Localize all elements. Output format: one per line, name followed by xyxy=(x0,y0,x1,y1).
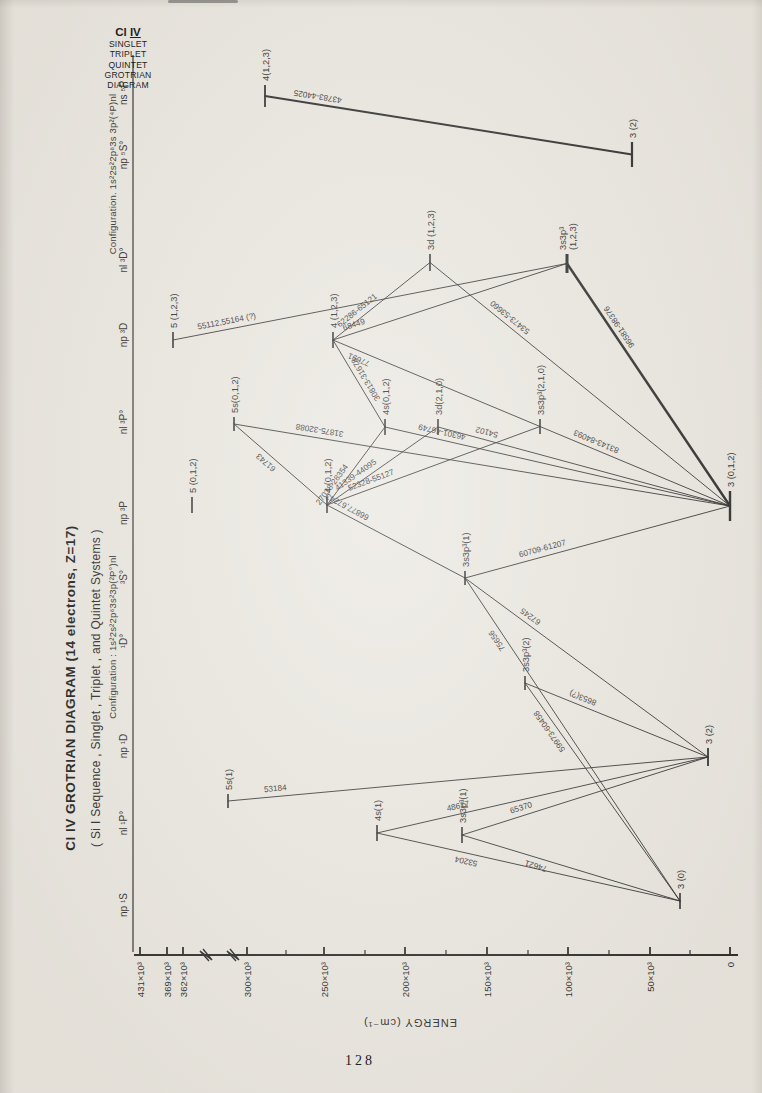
corner-title-block: Cl IV SINGLET TRIPLET QUINTET GROTRIAN D… xyxy=(100,26,156,90)
level-label: (1,2,3) xyxy=(568,223,578,250)
column-header: np ¹D xyxy=(118,734,129,758)
column-header: np ¹S xyxy=(118,893,129,917)
transition-label: 53184 xyxy=(264,783,288,794)
transition-line xyxy=(234,424,327,505)
transition-label: 54102 xyxy=(474,424,499,439)
level-label: 3s3p³ xyxy=(558,227,568,250)
level-label: 3d (1,2,3) xyxy=(426,210,436,250)
axis-tick-label: 100×10³ xyxy=(563,962,574,997)
transition-label: 31875-32088 xyxy=(295,422,345,439)
axis-tick-label: 50×10³ xyxy=(645,962,656,992)
corner-title-element: Cl IV xyxy=(100,26,156,39)
column-header: nl ¹P° xyxy=(118,811,129,836)
axis-tick-label: 0 xyxy=(725,962,736,967)
column-header: nl ³D° xyxy=(118,247,129,272)
transition-label: 83143-84093 xyxy=(572,428,620,455)
transition-line xyxy=(333,340,385,427)
configuration-quintet: Configuration. 1s²2s²2p⁶3s 3p²(⁴P)nl xyxy=(107,94,118,254)
transition-line xyxy=(525,683,680,901)
column-header: nl ³P° xyxy=(118,410,129,435)
scan-page: { "page": {"number": "128", "paper": "#e… xyxy=(0,0,762,1093)
axis-tick-label: 431×10³ xyxy=(135,962,146,997)
corner-title-line: QUINTET xyxy=(100,60,156,70)
level-label: 4 (0,1,2) xyxy=(323,458,333,493)
transition-line xyxy=(377,757,708,833)
level-label: 3 (0,1,2) xyxy=(726,452,736,487)
axis-tick-label: 300×10³ xyxy=(242,962,253,997)
subtitle: ( Si I Sequence , Singlet , Triplet , an… xyxy=(89,529,103,847)
level-label: 3 (2) xyxy=(704,725,714,744)
transition-label: 60709-61207 xyxy=(518,538,567,559)
corner-title-line: TRIPLET xyxy=(100,49,156,59)
transition-line xyxy=(265,96,632,155)
transition-label: 75656 xyxy=(487,628,507,652)
level-label: 5 (0,1,2) xyxy=(188,458,198,493)
level-label: 3s3p³(1) xyxy=(458,788,468,823)
transition-label: 59973-60458 xyxy=(532,709,568,754)
transition-line xyxy=(465,578,708,757)
level-label: 5 (1,2,3) xyxy=(169,293,179,328)
column-header: np ³D xyxy=(118,323,129,347)
level-label: 3s3p³(2,1,0) xyxy=(536,365,546,415)
axis-tick-label: 250×10³ xyxy=(319,962,330,997)
transition-line xyxy=(465,506,730,578)
level-label: 4 (1,2,3) xyxy=(329,293,339,328)
transition-label: 55112,55164 (?) xyxy=(197,311,257,331)
transition-line xyxy=(333,263,430,341)
corner-title-line: SINGLET xyxy=(100,39,156,49)
transition-line xyxy=(465,578,680,901)
level-label: 4(1,2,3) xyxy=(261,49,271,81)
energy-axis-label: ENERGY (cm⁻¹) xyxy=(363,1017,457,1029)
page-number: 128 xyxy=(330,1053,390,1069)
level-label: 5s(1) xyxy=(224,769,234,790)
transition-line xyxy=(228,757,708,801)
corner-title-line: GROTRIAN xyxy=(100,70,156,80)
transition-label: 53204 xyxy=(454,854,479,868)
transition-line xyxy=(540,427,730,507)
scan-smudge xyxy=(168,0,238,3)
level-label: 3s3p³(2) xyxy=(521,637,531,672)
transition-line xyxy=(377,833,680,901)
axis-tick-label: 369×10³ xyxy=(162,962,173,997)
transition-line xyxy=(430,263,730,507)
transition-line xyxy=(327,505,465,578)
transition-label: 46301-46749 xyxy=(417,422,466,442)
column-header: ¹D° xyxy=(118,634,129,649)
transition-line xyxy=(567,264,730,507)
column-header: np ⁵S° xyxy=(118,141,129,170)
grotrian-diagram-rotated-layer: 431×10³369×10³362×10³300×10³250×10³200×1… xyxy=(0,0,762,1093)
axis-tick-label: 362×10³ xyxy=(178,962,189,997)
level-label: 4s(0,1,2) xyxy=(381,378,391,415)
column-header: ³S° xyxy=(118,570,129,584)
corner-title-line: DIAGRAM xyxy=(100,80,156,90)
level-label: 3 (2) xyxy=(628,119,638,138)
level-label: 3s3p³(1) xyxy=(461,532,471,567)
transition-line xyxy=(525,683,708,757)
transition-label: 8653(?) xyxy=(568,688,598,707)
axis-tick-label: 150×10³ xyxy=(482,962,493,997)
level-label: 5s(0,1,2) xyxy=(230,376,240,413)
transition-label: 53473-53660 xyxy=(488,298,531,336)
main-title: Cl IV GROTRIAN DIAGRAM (14 electrons, Z=… xyxy=(63,525,78,851)
level-label: 3 (0) xyxy=(676,870,686,889)
transition-label: 61743 xyxy=(254,451,277,473)
level-label: 4s(1) xyxy=(373,800,383,821)
transition-line xyxy=(385,427,730,506)
column-header: np ³P xyxy=(118,501,129,525)
transition-label: 67245 xyxy=(518,606,542,627)
axis-tick-label: 200×10³ xyxy=(400,962,411,997)
configuration-main: Configuration : 1s²2s²2p⁶3s²3p(²P°)nl xyxy=(107,555,118,718)
level-label: 3d(2,1,0) xyxy=(434,378,444,415)
transition-line xyxy=(462,835,680,901)
